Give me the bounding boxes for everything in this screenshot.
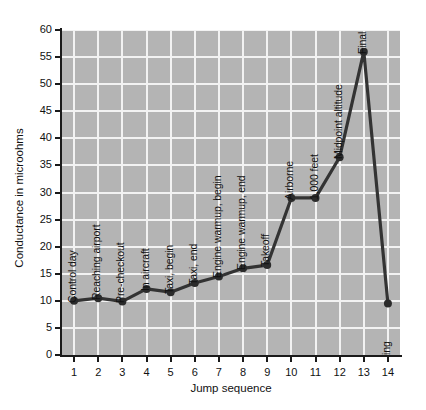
point-label-11: 1,000 feet [308,154,320,200]
y-tick-label-40: 40 [0,132,52,142]
y-tick-mark-20 [55,246,61,248]
y-tick-mark-35 [55,164,61,166]
point-label-12: Midpoint altitude [332,85,344,160]
y-tick-label-45: 45 [0,105,52,115]
point-label-14: Landing [380,341,392,355]
x-tick-mark-7 [218,356,220,362]
point-label-5: Taxi, begin [163,245,175,294]
point-label-4: In aircraft [139,248,151,291]
y-tick-label-30: 30 [0,187,52,197]
x-tick-mark-11 [315,356,317,362]
x-tick-mark-5 [170,356,172,362]
y-tick-label-50: 50 [0,78,52,88]
y-tick-mark-60 [55,29,61,31]
x-tick-mark-2 [97,356,99,362]
y-tick-mark-10 [55,300,61,302]
y-tick-mark-5 [55,327,61,329]
x-axis-line [60,355,402,357]
chart-container: Control dayReaching airportPre-checkoutI… [0,0,426,410]
point-label-1: Control day [66,250,78,303]
y-tick-mark-55 [55,56,61,58]
plot-area: Control dayReaching airportPre-checkoutI… [62,30,400,355]
x-tick-mark-3 [121,356,123,362]
y-axis-title: Conductance in microohms [13,83,25,313]
y-tick-mark-25 [55,219,61,221]
y-tick-label-0: 0 [0,349,52,359]
y-tick-label-15: 15 [0,268,52,278]
x-tick-mark-9 [266,356,268,362]
x-axis-title: Jump sequence [62,382,400,394]
y-tick-label-10: 10 [0,295,52,305]
x-tick-mark-10 [290,356,292,362]
y-tick-mark-0 [55,354,61,356]
y-tick-label-60: 60 [0,24,52,34]
y-tick-label-25: 25 [0,214,52,224]
point-label-6: Taxi, end [187,244,199,285]
y-tick-mark-45 [55,110,61,112]
data-series-line [62,30,400,355]
point-label-2: Reaching airport [90,225,102,300]
x-tick-label-14: 14 [373,366,403,378]
x-tick-mark-1 [73,356,75,362]
y-tick-mark-15 [55,273,61,275]
y-tick-mark-30 [55,192,61,194]
x-tick-mark-13 [363,356,365,362]
point-label-13: Final altitude [356,30,368,54]
point-label-8: Engine warmup, end [235,176,247,271]
y-tick-label-20: 20 [0,241,52,251]
x-tick-mark-4 [146,356,148,362]
x-tick-mark-6 [194,356,196,362]
point-label-3: Pre-checkout [114,243,126,304]
x-tick-mark-8 [242,356,244,362]
y-tick-label-5: 5 [0,322,52,332]
y-tick-label-35: 35 [0,159,52,169]
point-label-10: Airborne [283,161,295,200]
y-tick-label-55: 55 [0,51,52,61]
x-tick-mark-12 [339,356,341,362]
y-tick-mark-50 [55,83,61,85]
y-tick-mark-40 [55,137,61,139]
data-point-14 [384,300,392,308]
point-label-7: Engine warmup, begin [211,176,223,278]
x-tick-mark-14 [387,356,389,362]
point-label-9: Takeoff [259,234,271,267]
